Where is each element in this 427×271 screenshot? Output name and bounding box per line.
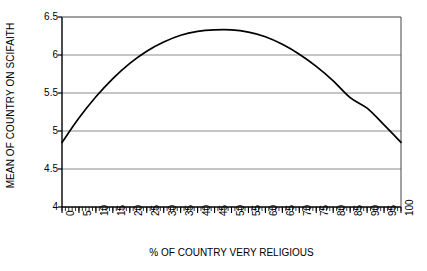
plot-area [0,0,427,271]
plot-background [62,17,401,207]
x-axis-major-ticks [62,207,401,213]
x-axis-title: % OF COUNTRY VERY RELIGIOUS [62,247,401,258]
chart-figure: MEAN OF COUNTRY ON SCIFAITH 44.555.566.5… [0,0,427,271]
